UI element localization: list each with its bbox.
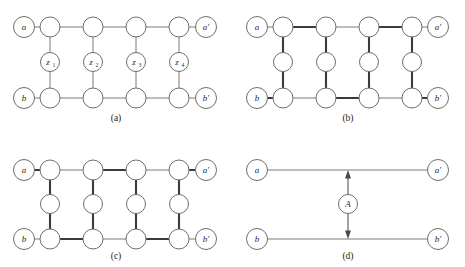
node-circle-mid-1[interactable]: [274, 53, 293, 72]
panel-d: A a a' b b' (d): [247, 160, 449, 263]
panel-a-node-z1[interactable]: z 1: [41, 53, 60, 72]
node-circle-mid-3[interactable]: [360, 53, 379, 72]
node-label-b: b: [255, 234, 260, 244]
node-label-z1: z: [45, 57, 50, 67]
panel-a-node-z3[interactable]: z 3: [127, 53, 146, 72]
panel-d-terminal-a[interactable]: a: [247, 160, 268, 181]
node-circle-mid-4[interactable]: [403, 53, 422, 72]
node-circle-bottom-2[interactable]: [83, 229, 103, 249]
node-circle-bottom-4[interactable]: [402, 88, 422, 108]
node-circle-bottom-1[interactable]: [40, 229, 60, 249]
node-label-z2: z: [88, 57, 93, 67]
node-circle-top-3[interactable]: [126, 17, 146, 37]
panel-c-terminal-b-prime[interactable]: b': [196, 229, 217, 250]
node-circle-top-4[interactable]: [402, 17, 422, 37]
node-label-a-prime: a': [435, 165, 443, 175]
node-circle-bottom-2[interactable]: [316, 88, 336, 108]
panel-d-terminal-a-prime[interactable]: a': [428, 160, 449, 181]
node-circle-bottom-1[interactable]: [40, 88, 60, 108]
panel-b-vertical-edges: [283, 27, 412, 98]
panel-a-node-z2[interactable]: z 2: [84, 53, 103, 72]
node-label-b: b: [22, 234, 27, 244]
node-label-b-prime: b': [203, 93, 211, 103]
node-label-A: A: [344, 199, 351, 209]
panel-a-terminal-a-prime[interactable]: a': [196, 17, 217, 38]
arrowhead-down-icon: [345, 231, 351, 240]
panel-d-node-A[interactable]: A: [339, 195, 358, 214]
node-circle-z2[interactable]: [84, 53, 103, 72]
panel-c-caption: (c): [111, 251, 122, 262]
panel-b-caption: (b): [342, 113, 353, 124]
arrowhead-up-icon: [345, 170, 351, 179]
node-circle-top-2[interactable]: [316, 17, 336, 37]
node-label-a: a: [255, 165, 260, 175]
panel-c-terminal-b[interactable]: b: [14, 229, 35, 250]
node-label-a: a: [22, 165, 27, 175]
panel-a-terminal-b[interactable]: b: [14, 88, 35, 109]
node-circle-bottom-4[interactable]: [169, 229, 189, 249]
node-circle-z1[interactable]: [41, 53, 60, 72]
node-label-b: b: [22, 93, 27, 103]
node-label-a-prime: a': [203, 22, 211, 32]
node-label-z3-subscript: 3: [139, 62, 142, 68]
node-label-z3: z: [131, 57, 136, 67]
node-label-z4-subscript: 4: [182, 62, 185, 68]
node-label-b-prime: b': [435, 93, 443, 103]
node-circle-mid-2[interactable]: [84, 195, 103, 214]
node-circle-bottom-2[interactable]: [83, 88, 103, 108]
panel-a-vertical-edges: [50, 27, 179, 98]
panel-c-terminal-a-prime[interactable]: a': [196, 160, 217, 181]
node-circle-mid-2[interactable]: [317, 53, 336, 72]
node-circle-mid-1[interactable]: [41, 195, 60, 214]
panel-b-terminal-b-prime[interactable]: b': [428, 88, 449, 109]
panel-b-terminal-a[interactable]: a: [247, 17, 268, 38]
node-circle-mid-4[interactable]: [170, 195, 189, 214]
panel-a: a a' b b': [14, 17, 217, 125]
node-circle-top-2[interactable]: [83, 17, 103, 37]
figure-root: a a' b b': [0, 0, 465, 267]
panel-b-terminal-b[interactable]: b: [247, 88, 268, 109]
node-label-b-prime: b': [203, 234, 211, 244]
node-label-a-prime: a': [203, 165, 211, 175]
node-circle-bottom-3[interactable]: [359, 88, 379, 108]
panel-d-caption: (d): [342, 251, 353, 262]
node-label-a: a: [22, 22, 27, 32]
node-circle-bottom-3[interactable]: [126, 88, 146, 108]
panel-d-terminal-b-prime[interactable]: b': [428, 229, 449, 250]
node-circle-top-1[interactable]: [40, 160, 60, 180]
panel-b: a a' b b': [247, 17, 449, 125]
node-label-a-prime: a': [435, 22, 443, 32]
panel-d-terminal-b[interactable]: b: [247, 229, 268, 250]
node-label-z1-subscript: 1: [53, 62, 56, 68]
node-circle-top-4[interactable]: [169, 160, 189, 180]
node-label-z4: z: [174, 57, 179, 67]
panel-c-vertical-edges: [50, 170, 179, 239]
node-circle-top-1[interactable]: [40, 17, 60, 37]
node-circle-bottom-4[interactable]: [169, 88, 189, 108]
panel-a-node-z4[interactable]: z 4: [170, 53, 189, 72]
panel-c-terminal-a[interactable]: a: [14, 160, 35, 181]
node-label-b: b: [255, 93, 260, 103]
figure-canvas: a a' b b': [0, 0, 465, 267]
node-circle-bottom-1[interactable]: [273, 88, 293, 108]
panel-c: a a' b b': [14, 160, 217, 263]
panel-a-caption: (a): [111, 113, 122, 124]
node-circle-top-1[interactable]: [273, 17, 293, 37]
node-circle-bottom-3[interactable]: [126, 229, 146, 249]
panel-a-terminal-b-prime[interactable]: b': [196, 88, 217, 109]
node-circle-z3[interactable]: [127, 53, 146, 72]
node-label-z2-subscript: 2: [96, 62, 99, 68]
node-label-a: a: [255, 22, 260, 32]
panel-a-terminal-a[interactable]: a: [14, 17, 35, 38]
node-label-b-prime: b': [435, 234, 443, 244]
node-circle-top-4[interactable]: [169, 17, 189, 37]
node-circle-top-2[interactable]: [83, 160, 103, 180]
node-circle-mid-3[interactable]: [127, 195, 146, 214]
panel-b-terminal-a-prime[interactable]: a': [428, 17, 449, 38]
node-circle-top-3[interactable]: [359, 17, 379, 37]
node-circle-top-3[interactable]: [126, 160, 146, 180]
node-circle-z4[interactable]: [170, 53, 189, 72]
